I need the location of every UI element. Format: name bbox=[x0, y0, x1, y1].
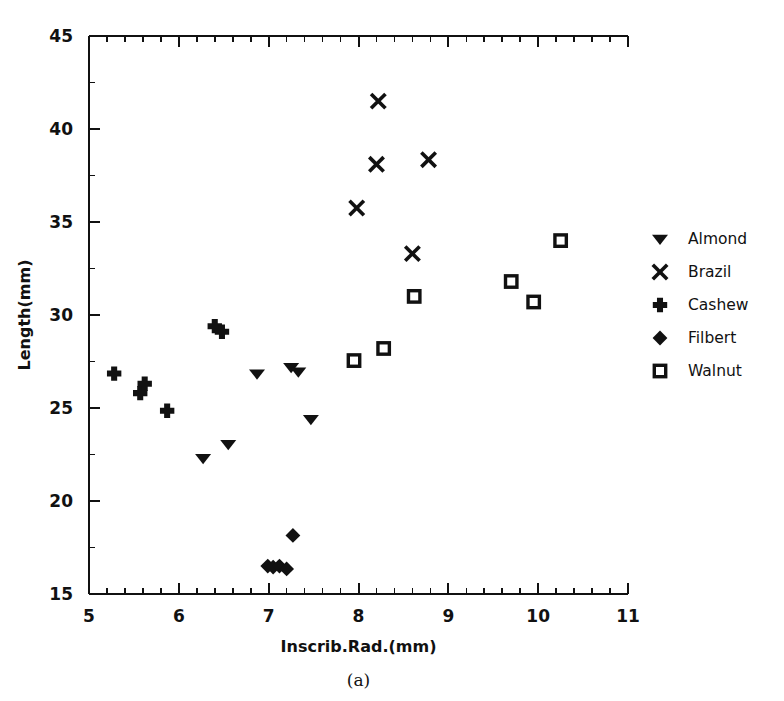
x-tick-label: 5 bbox=[83, 606, 95, 626]
data-point-walnut bbox=[528, 296, 539, 307]
x-tick-label: 10 bbox=[526, 606, 550, 626]
data-point-almond bbox=[290, 368, 306, 378]
x-tick-label: 11 bbox=[616, 606, 640, 626]
legend-label-cashew: Cashew bbox=[688, 296, 749, 314]
data-point-walnut bbox=[555, 235, 566, 246]
legend-label-almond: Almond bbox=[688, 230, 747, 248]
y-tick-label: 40 bbox=[49, 119, 73, 139]
x-tick-label: 7 bbox=[263, 606, 275, 626]
legend-label-brazil: Brazil bbox=[688, 263, 731, 281]
series-filbert bbox=[260, 528, 300, 576]
x-tick-label: 9 bbox=[442, 606, 454, 626]
y-tick-label: 30 bbox=[49, 305, 73, 325]
series-brazil bbox=[350, 94, 436, 261]
data-point-brazil bbox=[350, 201, 364, 215]
y-tick-label: 35 bbox=[49, 212, 73, 232]
x-tick-label: 6 bbox=[173, 606, 185, 626]
series-cashew bbox=[107, 319, 229, 418]
legend-marker-walnut bbox=[654, 365, 665, 376]
legend: AlmondBrazilCashewFilbertWalnut bbox=[652, 230, 749, 380]
x-tick-label: 8 bbox=[353, 606, 365, 626]
y-tick-label: 25 bbox=[49, 398, 73, 418]
legend-marker-cashew bbox=[653, 298, 667, 312]
legend-item-filbert[interactable]: Filbert bbox=[653, 329, 737, 347]
data-point-walnut bbox=[378, 343, 389, 354]
y-axis-title: Length(mm) bbox=[15, 260, 34, 371]
series-almond bbox=[195, 363, 319, 464]
legend-item-walnut[interactable]: Walnut bbox=[654, 362, 742, 380]
data-point-brazil bbox=[371, 94, 385, 108]
legend-label-walnut: Walnut bbox=[688, 362, 742, 380]
legend-item-brazil[interactable]: Brazil bbox=[653, 263, 731, 281]
y-tick-label: 15 bbox=[49, 584, 73, 604]
series-walnut bbox=[348, 235, 566, 366]
data-point-walnut bbox=[408, 291, 419, 302]
y-tick-label: 45 bbox=[49, 26, 73, 46]
data-point-brazil bbox=[369, 157, 383, 171]
data-point-almond bbox=[220, 440, 236, 450]
data-point-cashew bbox=[107, 366, 121, 380]
scatter-plot-figure: 56789101115202530354045Inscrib.Rad.(mm)L… bbox=[0, 0, 784, 701]
legend-label-filbert: Filbert bbox=[688, 329, 736, 347]
legend-item-almond[interactable]: Almond bbox=[652, 230, 747, 248]
x-axis-title: Inscrib.Rad.(mm) bbox=[281, 637, 437, 656]
data-point-walnut bbox=[506, 276, 517, 287]
plot-canvas: 56789101115202530354045Inscrib.Rad.(mm)L… bbox=[0, 0, 784, 701]
legend-marker-almond bbox=[652, 235, 668, 245]
legend-marker-brazil bbox=[653, 265, 667, 279]
data-point-brazil bbox=[421, 152, 435, 166]
data-point-walnut bbox=[348, 355, 359, 366]
y-tick-label: 20 bbox=[49, 491, 73, 511]
data-point-almond bbox=[195, 454, 211, 464]
figure-caption: (a) bbox=[347, 670, 370, 690]
legend-marker-filbert bbox=[653, 331, 668, 346]
data-point-brazil bbox=[405, 246, 419, 260]
data-point-almond bbox=[303, 415, 319, 425]
data-point-filbert bbox=[286, 528, 301, 543]
data-point-cashew bbox=[160, 404, 174, 418]
data-point-almond bbox=[249, 369, 265, 379]
legend-item-cashew[interactable]: Cashew bbox=[653, 296, 749, 314]
